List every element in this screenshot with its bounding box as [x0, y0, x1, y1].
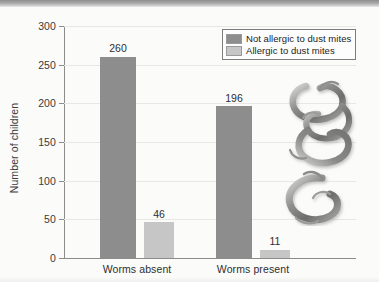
legend: Not allergic to dust mites Allergic to d…: [222, 29, 356, 60]
bar-value-260: 260: [109, 42, 127, 54]
bar-present-not-allergic[interactable]: [216, 106, 252, 258]
legend-label-not-allergic: Not allergic to dust mites: [246, 33, 351, 44]
plot-area: 260 46 196 11: [64, 26, 356, 258]
y-axis-tick-labels: 300 250 200 150 100 50 0: [0, 26, 56, 258]
x-axis-line: [64, 258, 356, 259]
legend-swatch-dark-icon: [226, 34, 242, 44]
y-tick-300: 300: [38, 20, 56, 32]
bar-value-46: 46: [153, 208, 165, 220]
y-tick-50: 50: [44, 213, 56, 225]
bar-absent-not-allergic[interactable]: [100, 57, 136, 258]
scan-artifact-bottom: [0, 277, 379, 282]
y-tick-0: 0: [50, 252, 56, 264]
bar-chart-figure: Number of children 300 250 200 150 100 5…: [0, 0, 379, 282]
legend-swatch-light-icon: [226, 46, 242, 56]
y-tick-250: 250: [38, 59, 56, 71]
bar-value-11: 11: [270, 235, 281, 247]
x-category-worms-absent: Worms absent: [103, 263, 172, 275]
legend-item-allergic[interactable]: Allergic to dust mites: [226, 45, 351, 56]
legend-label-allergic: Allergic to dust mites: [246, 45, 335, 56]
y-tick-100: 100: [38, 175, 56, 187]
bar-present-allergic[interactable]: [260, 250, 290, 259]
y-tick-150: 150: [38, 136, 56, 148]
bar-absent-allergic[interactable]: [144, 222, 174, 258]
x-category-worms-present: Worms present: [217, 263, 289, 275]
bar-value-196: 196: [225, 92, 243, 104]
scan-artifact-top: [0, 0, 379, 7]
gridline-300: [64, 26, 356, 27]
y-tick-200: 200: [38, 97, 56, 109]
legend-item-not-allergic[interactable]: Not allergic to dust mites: [226, 33, 351, 44]
